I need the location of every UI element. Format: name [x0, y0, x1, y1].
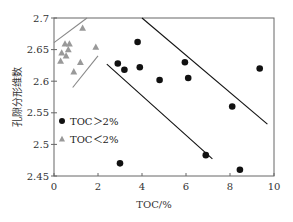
data-point-triangle: [65, 46, 72, 52]
data-point-circle: [237, 166, 244, 173]
y-tick-label: 2.5: [33, 139, 49, 150]
plot-frame: [54, 18, 274, 176]
legend-label: TOC＞2%: [70, 116, 118, 127]
data-point-triangle: [70, 68, 77, 74]
data-point-circle: [185, 75, 192, 82]
data-point-triangle: [79, 25, 86, 31]
y-tick-label: 2.7: [33, 13, 49, 24]
legend-marker-circle: [59, 118, 65, 124]
x-tick-label: 0: [51, 181, 57, 192]
y-tick-label: 2.65: [27, 44, 49, 55]
data-point-circle: [121, 67, 128, 74]
data-point-circle: [229, 103, 236, 110]
x-tick-label: 4: [139, 181, 145, 192]
data-point-circle: [115, 60, 122, 67]
data-point-circle: [256, 65, 263, 72]
data-point-circle: [137, 64, 144, 71]
trend-line: [73, 56, 98, 88]
scatter-chart: 02468102.452.52.552.62.652.7TOC/%孔隙分形维数T…: [0, 0, 293, 222]
trend-line: [142, 18, 267, 124]
data-point-circle: [117, 160, 124, 167]
data-point-triangle: [92, 43, 99, 49]
y-axis-title: 孔隙分形维数: [11, 67, 23, 127]
data-point-triangle: [58, 49, 65, 55]
y-tick-label: 2.55: [27, 107, 49, 118]
data-point-circle: [134, 39, 141, 46]
x-tick-label: 8: [227, 181, 233, 192]
x-tick-label: 2: [95, 181, 101, 192]
legend-label: TOC＜2%: [70, 134, 118, 145]
y-tick-label: 2.45: [27, 171, 49, 182]
x-tick-label: 6: [183, 181, 189, 192]
x-tick-label: 10: [268, 181, 281, 192]
data-point-circle: [156, 77, 163, 84]
data-point-triangle: [77, 59, 84, 65]
legend-marker-triangle: [59, 136, 65, 142]
data-point-triangle: [66, 40, 73, 46]
y-tick-label: 2.6: [33, 76, 49, 87]
data-point-circle: [182, 59, 189, 66]
data-point-circle: [203, 152, 210, 159]
x-axis-title: TOC/%: [136, 199, 171, 210]
